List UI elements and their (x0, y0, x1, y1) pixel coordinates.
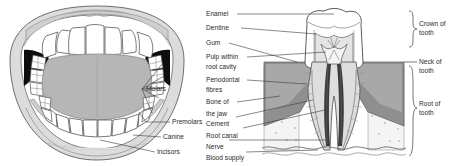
brace-label-crown-line1: Crown of (419, 20, 446, 28)
tooth-label-periodontal-line2: fibres (206, 86, 222, 94)
tooth-label-gum: Gum (206, 39, 220, 47)
tooth-label-pulp-line1: Pulp within (206, 53, 238, 61)
tooth-label-bone-line2: the jaw (206, 110, 227, 118)
dentine-root (308, 62, 360, 150)
tooth-label-root-canal: Root canal (206, 132, 238, 140)
brace-label-root-line1: Root of (419, 100, 440, 108)
brace-crown (409, 11, 417, 47)
tooth-label-dentine: Dentine (206, 24, 229, 32)
tooth-label-nerve: Nerve (206, 143, 224, 151)
nerve-blood-base-2 (262, 153, 406, 155)
tooth-label-periodontal-line1: Periodontal (206, 76, 240, 84)
tooth-label-blood-supply: Blood supply (206, 154, 244, 162)
tooth-label-cement: Cement (206, 120, 229, 128)
brace-root (409, 66, 417, 156)
brace-label-neck-line2: tooth (419, 67, 434, 75)
tooth-label-pulp-line2: root cavity (206, 63, 236, 71)
brace-label-crown-line2: tooth (419, 29, 434, 37)
diagram-canvas: Molars Premolars Canine Incisors (0, 0, 449, 166)
tooth-label-enamel: Enamel (206, 10, 228, 18)
brace-label-root-line2: tooth (419, 109, 434, 117)
tooth-label-bone-line1: Bone of (206, 98, 229, 106)
brace-label-neck-line1: Neck of (419, 58, 442, 66)
